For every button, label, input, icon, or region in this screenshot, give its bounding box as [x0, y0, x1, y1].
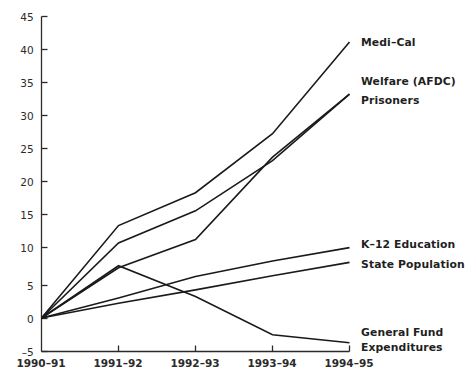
x-tick-marks: [119, 346, 350, 352]
y-tick-label-0: 0: [4, 313, 34, 325]
y-tick-label-10: 10: [4, 242, 34, 254]
series-label-prisoners: Prisoners: [361, 94, 419, 107]
series-line-prisoners: [42, 94, 350, 318]
series-label-k12-education: K–12 Education: [361, 238, 455, 251]
y-tick-label-25: 25: [4, 143, 34, 155]
series-line-welfare-afdc: [42, 94, 350, 318]
x-tick-label-1994-95: 1994–95: [314, 357, 384, 369]
x-tick-label-1990-91: 1990–91: [6, 357, 76, 369]
series-label-state-population: State Population: [361, 258, 465, 271]
y-tick-marks: [42, 17, 48, 352]
series-label-general-fund-expenditures-line2: Expenditures: [361, 341, 443, 355]
x-tick-label-1992-93: 1992–93: [160, 357, 230, 369]
y-tick-label-30: 30: [4, 110, 34, 122]
x-tick-label-1993-94: 1993–94: [237, 357, 307, 369]
series-line-general-fund-expenditures: [42, 266, 350, 343]
y-tick-label-5: 5: [4, 280, 34, 292]
y-tick-label-35: 35: [4, 77, 34, 89]
line-chart: 45 40 35 30 25 20 15 10 5 0 –5 1990–91 1…: [0, 0, 465, 379]
series-layer: [42, 42, 350, 343]
x-tick-label-1991-92: 1991–92: [83, 357, 153, 369]
chart-plot-area: [0, 0, 465, 379]
series-line-k-12-education: [42, 248, 350, 318]
series-label-medi-cal: Medi–Cal: [361, 36, 416, 49]
series-label-welfare-afdc: Welfare (AFDC): [361, 75, 456, 88]
y-tick-label-15: 15: [4, 209, 34, 221]
series-label-general-fund-expenditures-line1: General Fund: [361, 326, 443, 340]
y-tick-label-45: 45: [4, 11, 34, 23]
series-line-state-population: [42, 262, 350, 318]
y-tick-label-40: 40: [4, 44, 34, 56]
y-tick-label-20: 20: [4, 176, 34, 188]
